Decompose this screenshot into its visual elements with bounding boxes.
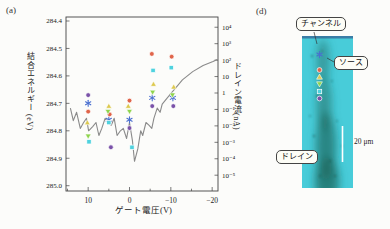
tick-label: 10⁴ xyxy=(222,24,232,32)
marker-circle xyxy=(317,96,322,101)
tick-label: 10⁻³ xyxy=(222,139,235,147)
scalebar-label: 20 μm xyxy=(354,137,373,146)
tick-label: 284.8 xyxy=(46,127,62,135)
y-axis-left-title: 結合エネルギー (eV) xyxy=(24,52,35,131)
tick-label: 10³ xyxy=(222,40,231,48)
marker-triangle-down xyxy=(85,134,91,139)
y-axis-right-title: ドレイン電流(nA) xyxy=(231,62,242,130)
tick-label: 284.9 xyxy=(46,155,62,163)
marker-asterisk xyxy=(86,100,91,106)
marker-circle xyxy=(317,68,322,73)
tick-label: 10 xyxy=(222,73,230,81)
device-position-markers xyxy=(317,52,323,101)
marker-square xyxy=(87,140,91,144)
tick-label: 284.7 xyxy=(46,100,62,108)
marker-circle xyxy=(86,109,91,114)
marker-triangle-up xyxy=(125,103,131,108)
source-callout: ソース xyxy=(334,56,368,70)
marker-circle xyxy=(109,145,114,150)
marker-square xyxy=(130,145,134,149)
figure: (a) 284.4284.5284.6284.7284.8284.9285.01… xyxy=(0,0,390,229)
tick-label: 284.6 xyxy=(46,72,62,80)
marker-square xyxy=(317,89,321,93)
marker-triangle-up xyxy=(106,103,112,108)
marker-square xyxy=(169,65,173,69)
tick-label: 284.4 xyxy=(46,17,62,25)
marker-asterisk xyxy=(127,117,132,123)
drain-current-curve xyxy=(70,59,217,161)
tick-label: 10 xyxy=(84,196,92,205)
marker-triangle-up xyxy=(317,74,323,79)
tick-label: 10² xyxy=(222,57,231,65)
marker-triangle-up xyxy=(171,84,177,89)
tick-label: 10⁻⁵ xyxy=(222,172,236,180)
x-axis-title: ゲート電圧(V) xyxy=(96,203,191,215)
marker-circle xyxy=(127,126,132,131)
marker-circle xyxy=(149,52,154,57)
marker-circle xyxy=(169,54,174,59)
marker-asterisk xyxy=(317,52,322,58)
marker-triangle-down xyxy=(317,82,323,87)
axis-ticks xyxy=(66,21,218,191)
marker-triangle-down xyxy=(150,90,156,95)
marker-circle xyxy=(127,98,132,103)
marker-triangle-up xyxy=(151,81,157,86)
tick-label: 10⁻⁴ xyxy=(222,155,236,163)
marker-asterisk xyxy=(150,95,155,101)
marker-circle xyxy=(86,93,91,98)
tick-label: 1 xyxy=(222,89,226,97)
marker-square xyxy=(151,68,155,72)
marker-triangle-down xyxy=(127,109,133,114)
channel-callout: チャンネル xyxy=(296,17,346,31)
marker-circle xyxy=(150,104,155,109)
tick-label: 284.5 xyxy=(46,45,62,53)
tick-label: 285.0 xyxy=(46,182,62,190)
tick-label: −20 xyxy=(206,196,218,205)
marker-circle xyxy=(171,104,176,109)
marker-square xyxy=(107,120,111,124)
drain-callout: ドレイン xyxy=(276,150,318,164)
channel-pointer-line xyxy=(314,32,317,44)
source-pointer-line xyxy=(327,58,334,62)
panel-d-overlay xyxy=(260,0,390,229)
gate-voltage-chart: 284.4284.5284.6284.7284.8284.9285.010⁴10… xyxy=(0,0,260,229)
